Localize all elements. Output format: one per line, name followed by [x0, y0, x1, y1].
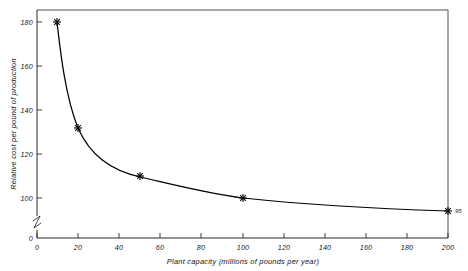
figure-container: 180 160 140 120 100 0 20 40 60 80	[0, 0, 468, 271]
chart-canvas: 180 160 140 120 100 0 20 40 60 80	[0, 0, 468, 271]
x-tick-label-120: 120	[278, 243, 291, 252]
data-point-markers	[53, 18, 452, 215]
data-point-200-95	[444, 207, 452, 215]
x-tick-label-40: 40	[115, 243, 123, 252]
y-axis-ticks	[37, 22, 42, 198]
x-tick-label-160: 160	[360, 243, 373, 252]
x-axis-tick-labels: 0 20 40 60 80 100 120 140 160 180 200	[35, 243, 454, 252]
y-tick-label-180: 180	[20, 18, 33, 27]
y-tick-label-160: 160	[20, 62, 33, 71]
data-point-50-110	[136, 172, 144, 180]
plot-frame-top-right	[37, 10, 448, 238]
y-axis-title: Relative cost per pound of production	[9, 58, 18, 190]
x-tick-label-140: 140	[319, 243, 332, 252]
x-tick-label-0: 0	[35, 243, 39, 252]
y-tick-label-140: 140	[20, 106, 33, 115]
data-point-annotation-95: 95	[455, 208, 462, 214]
x-axis-title: Plant capacity (millions of pounds per y…	[167, 257, 320, 266]
x-axis-ticks	[37, 233, 448, 238]
x-tick-label-60: 60	[156, 243, 164, 252]
x-tick-label-100: 100	[237, 243, 250, 252]
y-axis-tick-labels: 180 160 140 120 100	[20, 18, 33, 203]
y-axis-break-icon	[33, 216, 41, 228]
data-point-100-100	[239, 194, 247, 202]
data-curve	[57, 22, 448, 211]
y-origin-label: 0	[29, 234, 33, 243]
x-tick-label-20: 20	[73, 243, 82, 252]
x-tick-label-80: 80	[197, 243, 205, 252]
data-point-10-180	[53, 18, 61, 26]
y-tick-label-120: 120	[20, 150, 33, 159]
data-point-20-133	[74, 124, 82, 132]
y-tick-label-100: 100	[20, 194, 33, 203]
x-tick-label-180: 180	[401, 243, 414, 252]
x-tick-label-200: 200	[441, 243, 455, 252]
